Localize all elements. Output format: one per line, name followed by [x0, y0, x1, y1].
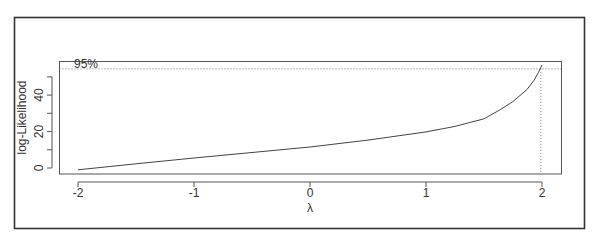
ci-label: 95%: [74, 57, 98, 71]
x-axis: -2-1012: [73, 182, 546, 200]
loglik-curve: [78, 65, 542, 170]
chart: -2-1012 02040 95% λ log-Likelihood: [0, 0, 596, 240]
confidence-annotations: 95%: [60, 57, 562, 174]
x-tick-label: -1: [189, 186, 200, 200]
x-axis-label: λ: [307, 201, 313, 215]
y-tick-label: 20: [32, 125, 46, 139]
x-tick-label: 0: [307, 186, 314, 200]
y-tick-label: 40: [32, 88, 46, 102]
x-tick-label: -2: [73, 186, 84, 200]
y-axis-label: log-Likelihood: [15, 80, 29, 154]
outer-frame: [15, 18, 585, 229]
x-tick-label: 1: [423, 186, 430, 200]
y-tick-label: 0: [32, 164, 46, 171]
y-axis: 02040: [32, 77, 52, 171]
x-tick-label: 2: [539, 186, 546, 200]
